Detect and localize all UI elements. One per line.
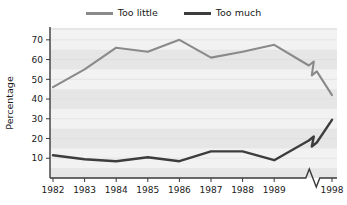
y-tick-label: 30 [32,114,44,124]
chart-plot: 10203040506070 1982198319841985198619871… [0,0,347,205]
y-tick-label: 70 [32,35,44,45]
y-tick-label: 40 [32,94,44,104]
x-tick-label: 1983 [73,185,96,195]
chart-container: Too little Too much 10203040506070 19821… [0,0,347,205]
plot-background [50,28,337,178]
x-tick-label: 1987 [200,185,223,195]
y-tick-label: 10 [32,153,44,163]
x-tick-label: 1988 [231,185,254,195]
x-tick-label: 1986 [168,185,191,195]
y-tick-label: 20 [32,134,44,144]
x-tick-label: 1998 [321,185,344,195]
x-tick-label: 1989 [263,185,286,195]
x-tick-label: 1982 [42,185,65,195]
y-tick-label: 60 [32,55,44,65]
x-tick-label: 1984 [105,185,128,195]
y-tick-label: 50 [32,75,44,85]
y-axis-ticks: 10203040506070 [32,35,50,163]
y-axis-title: Percentage [4,76,15,130]
x-axis-ticks: 198219831984198519861987198819891998 [42,178,344,195]
x-tick-label: 1985 [136,185,159,195]
